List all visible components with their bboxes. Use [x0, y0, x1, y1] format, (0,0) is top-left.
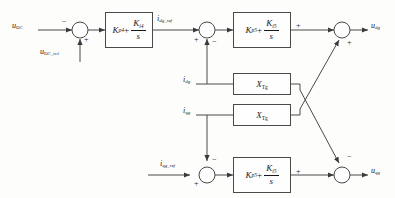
- sign-sum-d-current-left: +: [194, 36, 199, 44]
- block-pi-dc-voltage: Kp4+ Ki4 s: [105, 12, 153, 48]
- signal-label-idg: idg: [183, 76, 190, 85]
- sign-sum-q-current-left: +: [194, 180, 199, 188]
- signal-label-iqg: iqg: [183, 107, 190, 116]
- block-reactance-upper: XTg: [233, 73, 291, 95]
- sum-q-output-circle: [334, 167, 350, 183]
- block-pi-q-axis-current: Kp5+ Ki5 s: [233, 157, 291, 193]
- sign-sum-dc-bottom: +: [84, 36, 89, 44]
- sign-sum-d-current-bottom: −: [212, 38, 217, 46]
- block-reactance-lower: XTg: [233, 104, 291, 126]
- output-label-udg: udg: [371, 22, 380, 31]
- sign-sum-q-current-top: −: [212, 156, 217, 164]
- signal-label-idg-ref: idg_ref: [157, 15, 172, 24]
- input-label-udc: uDC: [12, 22, 23, 31]
- output-label-uqg: uqg: [371, 167, 380, 176]
- sum-q-current-circle: [199, 167, 215, 183]
- input-label-udc-ref: uDC_ref: [40, 48, 59, 57]
- sign-sum-d-output-left: +: [296, 22, 301, 30]
- sign-sum-d-output-diagonal: +: [347, 39, 352, 47]
- signal-wires: [0, 0, 395, 198]
- sum-d-output-circle: [334, 22, 350, 38]
- sum-d-current-circle: [199, 22, 215, 38]
- block-pi-d-axis-current: Kp5+ Ki5 s: [233, 12, 291, 48]
- sign-sum-q-output-left: +: [296, 168, 301, 176]
- control-block-diagram: uDC uDC_ref idg_ref idg iqg iqg_ref udg …: [0, 0, 395, 198]
- input-label-iqg-ref: iqg_ref: [160, 160, 175, 169]
- sign-sum-dc-left: −: [62, 18, 67, 26]
- sign-sum-q-output-diagonal: −: [347, 153, 352, 161]
